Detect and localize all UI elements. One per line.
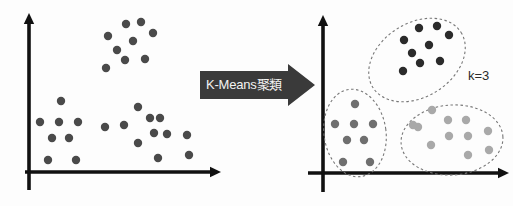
data-point xyxy=(436,57,444,65)
data-point xyxy=(433,22,441,30)
kmeans-figure: K-Means聚類 k=3 xyxy=(0,0,513,206)
axes xyxy=(24,13,221,190)
data-point xyxy=(141,55,149,63)
data-point xyxy=(485,146,493,154)
data-point xyxy=(156,114,164,122)
cluster-boundary-cluster-2-left xyxy=(318,85,392,181)
x-axis-arrowhead xyxy=(498,168,509,178)
x-axis-arrowhead xyxy=(210,167,221,177)
data-point xyxy=(146,114,154,122)
data-point xyxy=(428,106,436,114)
axes xyxy=(308,15,509,192)
data-point xyxy=(154,154,162,162)
data-point xyxy=(351,100,359,108)
data-point xyxy=(400,36,408,44)
data-point xyxy=(104,32,112,40)
data-point xyxy=(129,37,137,45)
data-point xyxy=(113,46,121,54)
point-group-cluster-1-top xyxy=(399,22,453,75)
point-group-cluster-3-right xyxy=(409,106,493,159)
data-point xyxy=(445,31,453,39)
y-axis-arrowhead xyxy=(318,15,328,26)
scatter-plot-before xyxy=(0,0,256,206)
data-point xyxy=(331,120,339,128)
data-point xyxy=(464,132,472,140)
data-point xyxy=(134,103,142,111)
data-point xyxy=(427,141,435,149)
data-point xyxy=(65,134,73,142)
data-point xyxy=(183,131,191,139)
data-point xyxy=(137,18,145,26)
data-point xyxy=(185,151,193,159)
data-point xyxy=(444,116,452,124)
data-point xyxy=(57,97,65,105)
data-point xyxy=(36,118,44,126)
data-point xyxy=(399,67,407,75)
point-group-cluster-2-left xyxy=(331,100,377,166)
cluster-boundary-cluster-3-right xyxy=(399,102,506,179)
data-point xyxy=(464,151,472,159)
data-point xyxy=(149,29,157,37)
data-point xyxy=(121,56,129,64)
data-point xyxy=(48,134,56,142)
data-point xyxy=(369,120,377,128)
data-point xyxy=(409,121,417,129)
point-group-all-points xyxy=(36,18,193,164)
data-point xyxy=(360,136,368,144)
data-point xyxy=(74,118,82,126)
data-point xyxy=(122,20,130,28)
y-axis-arrowhead xyxy=(24,13,34,24)
data-point xyxy=(101,123,109,131)
scatter-plot-after xyxy=(256,0,513,206)
panel-after-clustering xyxy=(256,0,513,206)
data-point xyxy=(408,49,416,57)
data-point xyxy=(484,127,492,135)
data-point xyxy=(150,129,158,137)
data-point xyxy=(462,116,470,124)
data-point xyxy=(339,158,347,166)
cluster-boundary-cluster-1-top xyxy=(353,1,480,119)
data-point xyxy=(120,121,128,129)
panel-before-clustering xyxy=(0,0,256,206)
data-point xyxy=(343,136,351,144)
k-value-annotation: k=3 xyxy=(468,68,489,83)
data-point xyxy=(72,156,80,164)
data-point xyxy=(425,41,433,49)
data-point xyxy=(163,130,171,138)
data-point xyxy=(44,156,52,164)
transform-arrow-label: K-Means聚類 xyxy=(206,75,292,95)
data-point xyxy=(416,59,424,67)
data-point xyxy=(102,64,110,72)
data-point xyxy=(350,120,358,128)
data-point xyxy=(366,158,374,166)
data-point xyxy=(445,132,453,140)
data-point xyxy=(415,24,423,32)
data-point xyxy=(55,118,63,126)
data-point xyxy=(134,139,142,147)
